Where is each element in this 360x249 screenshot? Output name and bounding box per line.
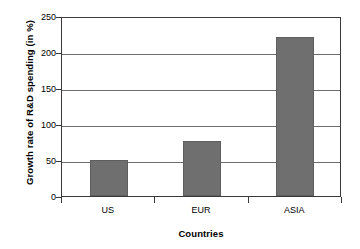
x-axis-tick-mark bbox=[61, 197, 62, 203]
bars-group bbox=[62, 18, 340, 196]
y-axis-tick-label: 0 bbox=[26, 193, 56, 202]
x-axis-tick-mark bbox=[154, 197, 155, 203]
bar-asia bbox=[276, 37, 314, 196]
x-axis-tick-label-us: US bbox=[63, 205, 153, 215]
y-axis-tick-label: 200 bbox=[26, 49, 56, 58]
x-axis-tick-label-asia: ASIA bbox=[249, 205, 339, 215]
y-axis-tick-label: 100 bbox=[26, 121, 56, 130]
plot-area bbox=[61, 17, 341, 197]
y-axis-tick-label: 50 bbox=[26, 157, 56, 166]
bar-us bbox=[90, 160, 128, 196]
x-axis-tick-mark bbox=[341, 197, 342, 203]
y-axis-tick-label: 150 bbox=[26, 85, 56, 94]
y-axis-tick-label: 250 bbox=[26, 13, 56, 22]
bar-chart-figure: Growth rate of R&D spending (in %) 05010… bbox=[0, 0, 360, 249]
bar-eur bbox=[183, 141, 221, 196]
y-axis-tick-labels: 050100150200250 bbox=[26, 0, 56, 249]
x-axis-tick-label-eur: EUR bbox=[156, 205, 246, 215]
x-axis-tick-mark bbox=[248, 197, 249, 203]
x-axis-title: Countries bbox=[61, 228, 341, 239]
